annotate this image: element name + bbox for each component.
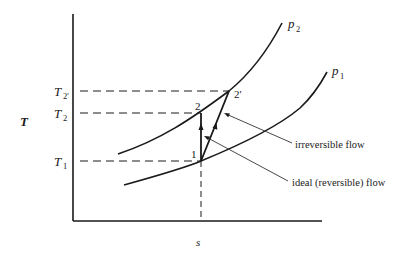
- irreversible-leader-arrow-icon: [224, 113, 230, 117]
- y-axis-label: T: [20, 114, 29, 129]
- t2-label: T 2: [54, 106, 67, 123]
- svg-text:T: T: [54, 106, 62, 121]
- x-axis-label: s: [196, 236, 200, 248]
- point-1-label: 1: [191, 148, 197, 160]
- t1-label: T 1: [54, 154, 67, 171]
- isobar-p1-label: p 1: [331, 63, 344, 81]
- irreversible-leader-line: [226, 114, 292, 143]
- svg-text:1: 1: [340, 71, 344, 81]
- ideal-leader-line: [206, 137, 288, 181]
- isobar-p2-label: p 2: [287, 16, 300, 34]
- ideal-flow-annotation: ideal (reversible) flow: [292, 177, 386, 189]
- ideal-arrow-icon: [199, 123, 204, 130]
- svg-text:2': 2': [63, 91, 69, 101]
- svg-text:p: p: [287, 16, 295, 31]
- svg-text:1: 1: [63, 161, 67, 171]
- point-2prime-label: 2': [234, 88, 242, 100]
- point-2-label: 2: [195, 100, 201, 112]
- svg-text:2: 2: [296, 24, 300, 34]
- ts-diagram: T s T 2' T 2 T 1 p 2 p 1 1 2 2' irrevers…: [0, 0, 415, 257]
- svg-text:p: p: [331, 63, 339, 78]
- t2prime-label: T 2': [54, 84, 69, 101]
- irreversible-flow-annotation: irreversible flow: [295, 139, 365, 150]
- svg-text:2: 2: [63, 113, 67, 123]
- svg-text:T: T: [54, 84, 62, 99]
- isobar-p1-curve: [124, 72, 327, 185]
- svg-text:T: T: [54, 154, 62, 169]
